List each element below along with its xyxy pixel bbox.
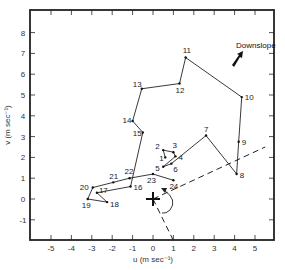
y-tick-label: 8	[21, 29, 26, 38]
data-point	[178, 82, 180, 84]
data-point	[152, 173, 154, 175]
data-point	[142, 131, 144, 133]
y-tick-label: 0	[21, 195, 26, 204]
data-point	[172, 179, 174, 181]
point-label: 24	[169, 182, 178, 191]
data-point	[237, 141, 239, 143]
hodograph-points: 123456789101112131415161718192021222324	[80, 46, 254, 210]
x-tick-label: -1	[129, 244, 137, 253]
data-point	[128, 177, 130, 179]
point-label: 19	[82, 201, 91, 210]
axis-tick-labels: -5-4-3-2-1012345-1012345678	[19, 29, 257, 253]
point-label: 2	[155, 142, 160, 151]
x-tick-label: 3	[212, 244, 217, 253]
y-tick-label: 2	[21, 153, 26, 162]
point-label: 21	[109, 172, 118, 181]
data-point	[96, 192, 98, 194]
data-point	[129, 185, 131, 187]
data-point	[235, 173, 237, 175]
data-point	[106, 201, 108, 203]
y-axis-label: v (m sec⁻¹)	[3, 105, 12, 145]
point-label: 3	[172, 141, 177, 150]
point-label: 5	[155, 164, 160, 173]
rotation-arc-arrow	[161, 188, 173, 213]
point-label: 20	[80, 183, 89, 192]
point-label: 17	[99, 186, 108, 195]
x-tick-label: 1	[171, 244, 176, 253]
data-point	[162, 149, 164, 151]
data-point	[174, 155, 176, 157]
x-tick-label: -4	[68, 244, 76, 253]
point-label: 1	[159, 154, 164, 163]
data-point	[205, 134, 207, 136]
downslope-arrow-icon	[232, 51, 243, 67]
point-label: 12	[176, 86, 185, 95]
point-label: 18	[110, 200, 119, 209]
y-tick-label: -1	[19, 216, 27, 225]
point-label: 11	[183, 46, 192, 55]
x-tick-label: 2	[192, 244, 197, 253]
y-tick-label: 6	[21, 70, 26, 79]
hodograph-chart: -5-4-3-2-1012345-1012345678 123456789101…	[0, 0, 285, 270]
x-tick-label: -2	[109, 244, 117, 253]
data-point	[184, 56, 186, 58]
point-label: 6	[173, 165, 178, 174]
x-tick-label: -3	[88, 244, 96, 253]
x-tick-label: 5	[253, 244, 258, 253]
y-tick-label: 1	[21, 174, 26, 183]
data-point	[241, 96, 243, 98]
data-point	[92, 186, 94, 188]
x-tick-label: 0	[151, 244, 156, 253]
point-label: 4	[178, 153, 183, 162]
y-tick-label: 7	[21, 49, 26, 58]
point-label: 22	[125, 167, 134, 176]
data-point	[164, 156, 166, 158]
data-point	[170, 162, 172, 164]
x-tick-label: -5	[47, 244, 55, 253]
point-label: 15	[133, 129, 142, 138]
data-point	[112, 181, 114, 183]
downslope-label: Downslope	[236, 41, 276, 50]
point-label: 10	[245, 93, 254, 102]
y-tick-label: 4	[21, 112, 26, 121]
point-label: 13	[133, 80, 142, 89]
point-label: 23	[147, 176, 156, 185]
point-label: 8	[240, 171, 245, 180]
y-tick-label: 3	[21, 133, 26, 142]
origin-marker	[146, 192, 160, 206]
point-label: 9	[242, 138, 247, 147]
point-label: 7	[204, 125, 209, 134]
data-point	[87, 198, 89, 200]
point-label: 14	[123, 116, 132, 125]
x-tick-label: 4	[232, 244, 237, 253]
data-point	[172, 151, 174, 153]
point-label: 16	[134, 183, 143, 192]
y-tick-label: 5	[21, 91, 26, 100]
x-axis-label: u (m sec⁻¹)	[133, 255, 173, 264]
data-point	[162, 166, 164, 168]
data-point	[131, 120, 133, 122]
